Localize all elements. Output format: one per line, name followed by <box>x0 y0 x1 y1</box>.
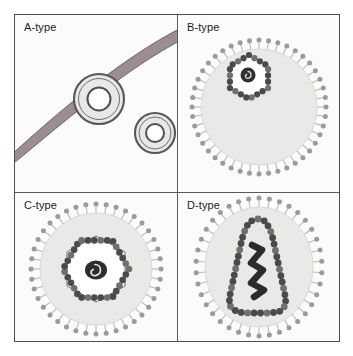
nucleoid-core <box>241 68 256 83</box>
panel-a-type: A-type <box>15 15 177 192</box>
d-type-illustration <box>178 193 339 341</box>
panel-c-label: C-type <box>24 199 57 211</box>
figure-frame: A-type B-type <box>14 14 340 342</box>
a-type-particle-on-membrane <box>74 74 124 124</box>
c-type-illustration <box>15 193 177 341</box>
panel-a-label: A-type <box>24 21 56 33</box>
a-type-particle-free <box>135 113 175 153</box>
panel-b-label: B-type <box>187 21 219 33</box>
panel-d-label: D-type <box>187 199 220 211</box>
b-type-illustration <box>178 15 339 192</box>
nucleoid-core <box>85 261 107 280</box>
panel-c-type: C-type <box>15 193 177 341</box>
virus-morphology-figure: A-type B-type <box>0 0 353 356</box>
a-type-illustration <box>15 15 177 192</box>
panel-b-type: B-type <box>178 15 339 192</box>
panel-d-type: D-type <box>178 193 339 341</box>
